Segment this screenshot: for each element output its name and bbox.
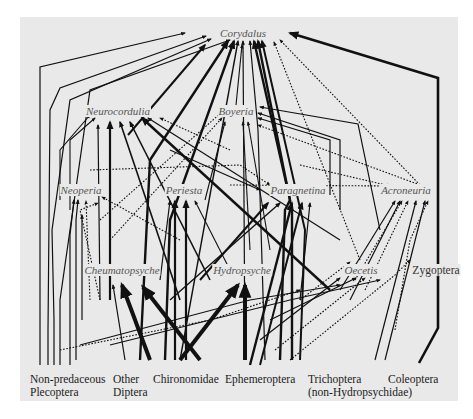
- food-web-links: [0, 0, 473, 419]
- node-acroneuria: Acroneuria: [380, 184, 432, 196]
- feeding-link-arrow: [80, 203, 100, 300]
- feeding-link-arrow: [76, 200, 78, 360]
- node-cheumatopsyche: Cheumatopsyche: [83, 264, 160, 276]
- node-boyeria: Boyeria: [218, 105, 255, 117]
- prey-label-line1: Non-predaceous: [30, 373, 105, 386]
- feeding-link-arrow: [70, 118, 95, 210]
- prey-label-line2: Diptera: [113, 386, 147, 399]
- feeding-link-arrow: [122, 285, 150, 360]
- feeding-link-arrow: [236, 45, 242, 105]
- prey-non-predaceous-plecoptera: Non-predaceousPlecoptera: [30, 373, 105, 399]
- prey-label-line2: Plecoptera: [30, 386, 105, 399]
- node-neurocordulia: Neurocordulia: [85, 105, 151, 117]
- node-corydalus: Corydalus: [219, 27, 267, 39]
- feeding-link-arrow: [300, 262, 350, 300]
- feeding-link-arrow: [48, 36, 206, 365]
- node-neoperia: Neoperia: [60, 184, 103, 196]
- node-zygoptera: Zygoptera: [411, 264, 460, 276]
- feeding-link-arrow: [113, 285, 125, 360]
- feeding-link-arrow: [300, 165, 390, 186]
- feeding-link-arrow: [290, 33, 438, 363]
- feeding-link-arrow: [280, 40, 420, 185]
- prey-other-diptera: OtherDiptera: [113, 373, 147, 399]
- prey-label-line1: Ephemeroptera: [225, 373, 295, 386]
- feeding-link-arrow: [385, 201, 425, 360]
- prey-label-line1: Coleoptera: [388, 373, 438, 386]
- feeding-link-arrow: [86, 201, 90, 300]
- prey-coleoptera: Coleoptera: [388, 373, 438, 386]
- prey-label-line2: (non-Hydropsychidae): [308, 386, 412, 399]
- feeding-link-arrow: [180, 41, 238, 360]
- node-paragnetina: Paragnetina: [270, 184, 327, 196]
- feeding-link-arrow: [180, 285, 238, 360]
- feeding-link-arrow: [250, 203, 292, 365]
- prey-label-line1: Other: [113, 373, 147, 386]
- node-oecetis: Oecetis: [344, 264, 379, 276]
- prey-chironomidae: Chironomidae: [153, 373, 219, 386]
- feeding-link-arrow: [375, 201, 416, 360]
- node-periesta: Periesta: [165, 184, 204, 196]
- feeding-link-arrow: [100, 112, 222, 220]
- feeding-link-arrow: [260, 107, 380, 230]
- feeding-link-arrow: [70, 200, 74, 365]
- node-hydropsyche: Hydropsyche: [212, 264, 272, 276]
- prey-ephemeroptera: Ephemeroptera: [225, 373, 295, 386]
- prey-label-line1: Chironomidae: [153, 373, 219, 386]
